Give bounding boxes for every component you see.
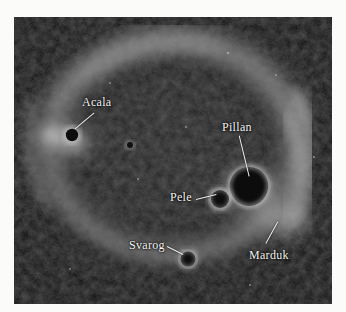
spot-acala: [63, 126, 81, 144]
image-plate: Acala Pillan Pele Marduk Svarog: [14, 17, 332, 304]
spot-svarog: [177, 248, 199, 270]
spot-pele: [208, 187, 232, 211]
label-pillan: Pillan: [222, 121, 252, 133]
label-svarog: Svarog: [129, 239, 165, 251]
label-acala: Acala: [82, 96, 111, 108]
label-marduk: Marduk: [249, 249, 289, 261]
label-pele: Pele: [170, 191, 192, 203]
spot-unnamed-1: [125, 140, 135, 150]
figure-container: Acala Pillan Pele Marduk Svarog: [0, 0, 346, 312]
